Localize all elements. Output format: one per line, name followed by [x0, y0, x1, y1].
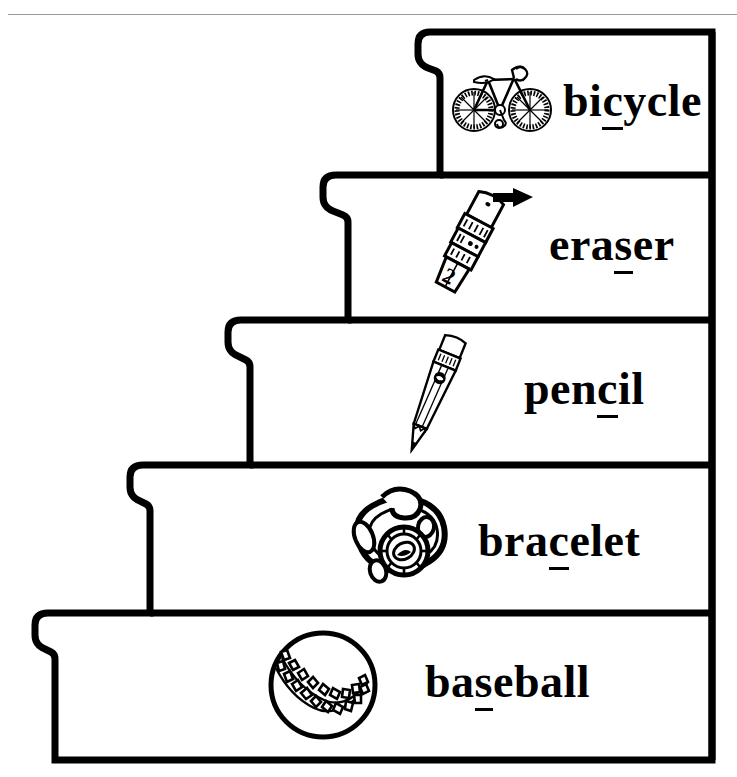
word-part-underlined: s — [475, 656, 493, 711]
word-part-underlined: c — [549, 515, 570, 570]
step-word-bracelet: bracelet — [478, 518, 640, 564]
step-word-bicycle: bicycle — [563, 78, 702, 124]
word-part-before: pen — [524, 363, 597, 414]
word-part-after: elet — [569, 515, 640, 566]
word-part-after: er — [633, 219, 675, 270]
word-part-before: era — [549, 219, 614, 270]
word-part-underlined: c — [602, 75, 623, 130]
word-part-underlined: c — [597, 363, 618, 418]
word-part-before: bra — [478, 515, 549, 566]
word-part-after: eball — [493, 656, 590, 707]
baseball-illustration — [271, 633, 375, 737]
word-part-before: bi — [563, 75, 602, 126]
word-part-after: ycle — [623, 75, 702, 126]
step-word-pencil: pencil — [524, 366, 645, 412]
word-part-before: ba — [425, 656, 475, 707]
worksheet-page: 2 — [0, 0, 737, 777]
word-part-after: il — [618, 363, 645, 414]
word-part-underlined: s — [614, 219, 632, 274]
step-word-eraser: eraser — [549, 222, 675, 268]
step-word-baseball: baseball — [425, 659, 590, 705]
